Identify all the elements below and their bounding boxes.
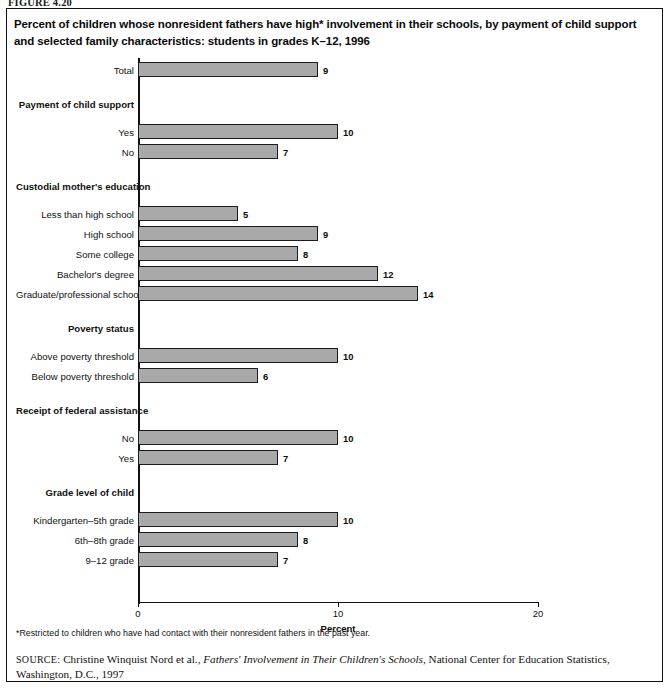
category-label: Some college [16,250,134,260]
bar-value-label: 10 [343,352,353,361]
bar [138,348,338,363]
category-label: 6th–8th grade [16,536,134,546]
category-label: Below poverty threshold [16,372,134,382]
bar-value-label: 7 [283,454,288,463]
bar-value-label: 5 [243,210,248,219]
category-label: No [16,434,134,444]
category-label: Total [16,66,134,76]
bar-value-label: 8 [303,536,308,545]
category-label: 9–12 grade [16,556,134,566]
bar [138,266,378,281]
source-label: SOURCE: [16,654,60,665]
x-axis-tick [138,602,139,607]
bar-value-label: 6 [263,372,268,381]
bars-layer: 910759812141061071087 [138,58,538,600]
bar-value-label: 9 [323,230,328,239]
source-note: SOURCE: Christine Winquist Nord et al., … [16,652,644,682]
category-label: Yes [16,128,134,138]
category-label: Less than high school [16,210,134,220]
source-text-before: Christine Winquist Nord et al., [60,653,203,665]
x-axis-tick [538,602,539,607]
page-title: Percent of children whose nonresident fa… [14,16,642,49]
bar-value-label: 8 [303,250,308,259]
footnote: *Restricted to children who have had con… [16,628,628,639]
bar-value-label: 9 [323,66,328,75]
bar-value-label: 14 [423,290,433,299]
source-title-italic: Fathers' Involvement in Their Children's… [203,653,423,665]
bar [138,144,278,159]
bar [138,286,418,301]
bar [138,226,318,241]
x-axis-tick-label: 0 [135,608,140,619]
category-label: Kindergarten–5th grade [16,516,134,526]
group-header-label: Grade level of child [16,488,134,498]
bar [138,552,278,567]
x-axis-tick [338,602,339,607]
x-axis-tick-label: 20 [533,608,544,619]
category-label: No [16,148,134,158]
category-label: Graduate/professional school [16,290,134,300]
bar [138,206,238,221]
group-header-label: Receipt of federal assistance [16,406,134,416]
figure-number: FIGURE 4.20 [8,0,72,8]
category-label: Above poverty threshold [16,352,134,362]
group-header-label: Payment of child support [16,100,134,110]
category-label: Bachelor's degree [16,270,134,280]
bar-value-label: 10 [343,128,353,137]
bar-value-label: 10 [343,516,353,525]
category-label: Yes [16,454,134,464]
category-label: High school [16,230,134,240]
bar [138,62,318,77]
bar [138,430,338,445]
bar [138,532,298,547]
category-labels: TotalPayment of child supportYesNoCustod… [8,58,134,604]
bar-value-label: 12 [383,270,393,279]
bar [138,368,258,383]
bar-value-label: 7 [283,556,288,565]
bar-chart: TotalPayment of child supportYesNoCustod… [8,58,648,613]
group-header-label: Custodial mother's education [16,182,134,192]
group-header-label: Poverty status [16,324,134,334]
bar [138,246,298,261]
bar [138,124,338,139]
bar-value-label: 10 [343,434,353,443]
bar [138,450,278,465]
bar [138,512,338,527]
bar-value-label: 7 [283,148,288,157]
x-axis-tick-label: 10 [333,608,344,619]
